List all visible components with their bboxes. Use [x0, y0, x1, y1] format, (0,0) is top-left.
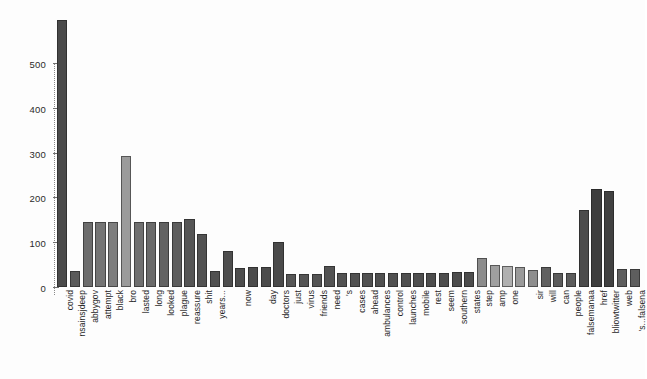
x-axis-label: ahead: [371, 290, 380, 314]
y-axis-tick: 0: [53, 287, 59, 288]
y-axis-tick-label: 300: [30, 148, 46, 159]
x-axis-label: step: [485, 290, 494, 306]
bar: [579, 210, 589, 287]
bar: [70, 271, 80, 287]
x-axis-label: plague: [180, 290, 189, 316]
bar: [375, 273, 385, 287]
x-axis-label: long: [155, 290, 164, 306]
y-axis-tick-label: 400: [30, 103, 46, 114]
bar: [426, 273, 436, 287]
x-axis-label-text: falsemanaa: [587, 290, 596, 335]
x-axis-label-text: one: [511, 290, 520, 304]
x-axis-label: doctors: [282, 290, 291, 319]
x-axis-label: day: [269, 290, 278, 304]
bar: [591, 189, 601, 287]
y-axis-tick-label: 200: [30, 193, 46, 204]
x-axis-label: web: [625, 290, 634, 306]
bar: [83, 222, 93, 287]
x-axis-label-text: now: [244, 290, 253, 306]
bar: [134, 222, 144, 287]
x-axis-label: virus: [307, 290, 316, 308]
x-axis-label-text: bliowtwitter: [612, 290, 621, 333]
bar: [210, 271, 220, 287]
bar: [528, 270, 538, 287]
bar: [184, 219, 194, 287]
x-axis-label-text: 's...falsena: [638, 290, 647, 332]
x-axis-label: abbygov: [91, 290, 100, 323]
x-axis-label: lasted: [142, 290, 151, 313]
y-axis-tick-label: 100: [30, 238, 46, 249]
bar: [439, 273, 449, 287]
x-axis-label-text: black: [116, 290, 125, 310]
bar: [502, 266, 512, 288]
bar: [121, 156, 131, 287]
y-axis-line: [54, 63, 55, 295]
x-axis-label: people: [574, 290, 583, 316]
x-axis-label-text: just: [294, 290, 303, 304]
bar: [312, 274, 322, 287]
bar: [630, 269, 640, 287]
bar: [413, 273, 423, 287]
bar: [299, 274, 309, 287]
bar: [172, 222, 182, 287]
x-axis-label: black: [116, 290, 125, 310]
bar: [57, 20, 67, 287]
x-axis-label-text: launches: [409, 290, 418, 325]
bar: [541, 267, 551, 287]
bar: [515, 267, 525, 287]
bar: [235, 268, 245, 287]
x-axis-label-text: plague: [180, 290, 189, 316]
x-axis-label-text: sir: [536, 290, 545, 299]
x-axis-label: nsainsjdeep: [78, 290, 87, 336]
x-axis-label: friends: [320, 290, 329, 316]
x-axis-label: 's...falsena: [638, 290, 647, 332]
x-axis-label-text: web: [625, 290, 634, 306]
x-axis-label: attempt: [104, 290, 113, 319]
x-axis-label-text: lasted: [142, 290, 151, 313]
x-axis-label-text: abbygov: [91, 290, 100, 323]
x-axis-label: years...: [218, 290, 227, 319]
x-axis-label: href: [600, 290, 609, 305]
bar-series: [56, 8, 641, 287]
x-axis-label-text: day: [269, 290, 278, 304]
bar: [159, 222, 169, 287]
x-axis-label-text: people: [574, 290, 583, 316]
x-axis-label: bliowtwitter: [612, 290, 621, 333]
bar: [452, 272, 462, 287]
bar: [273, 242, 283, 287]
x-axis-label: sir: [536, 290, 545, 299]
x-axis-label-text: cases: [358, 290, 367, 313]
y-axis-tick-label: 500: [30, 59, 46, 70]
x-axis-label-text: long: [155, 290, 164, 306]
bar: [261, 267, 271, 287]
x-axis-label-text: control: [396, 290, 405, 316]
x-axis-label: mobile: [422, 290, 431, 316]
x-axis-label: cases: [358, 290, 367, 313]
x-axis-label-text: href: [600, 290, 609, 305]
bar: [108, 222, 118, 287]
bar: [388, 273, 398, 287]
bar: [337, 273, 347, 287]
x-axis-label: will: [549, 290, 558, 302]
x-axis-label: 's: [345, 290, 354, 296]
x-axis-label-text: ambulances: [383, 290, 392, 337]
bar: [197, 234, 207, 287]
x-axis-label-text: doctors: [282, 290, 291, 319]
x-axis-label: need: [333, 290, 342, 309]
x-axis-label: reassure: [193, 290, 202, 324]
bar: [350, 273, 360, 287]
x-axis-label-text: mobile: [422, 290, 431, 316]
x-axis-label: now: [244, 290, 253, 306]
bar: [464, 272, 474, 287]
bar: [604, 191, 614, 287]
x-axis-label-text: need: [333, 290, 342, 309]
x-axis-label-text: states: [473, 290, 482, 313]
x-axis-label: looked: [167, 290, 176, 316]
x-axis-label-text: covid: [66, 290, 75, 310]
bar: [95, 222, 105, 287]
bar: [286, 274, 296, 287]
x-axis-label-text: virus: [307, 290, 316, 308]
x-axis-label: one: [511, 290, 520, 304]
x-axis-label: shit: [205, 290, 214, 304]
